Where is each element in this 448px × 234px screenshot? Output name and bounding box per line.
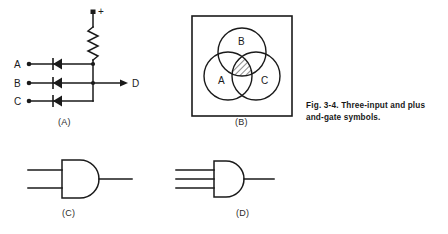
terminal-dot-a	[27, 62, 32, 67]
venn-diagram-graphic: B A C	[188, 8, 298, 132]
supply-plus-label: +	[98, 6, 104, 17]
figure-sheet: A B C D +	[0, 0, 448, 234]
figure-caption: Fig. 3-4. Three-input and plus and-gate …	[306, 100, 444, 123]
supply-terminal	[91, 10, 96, 15]
resistor-zigzag	[88, 27, 98, 60]
gate-c-body	[62, 160, 99, 198]
and-gate-symbol-2-input	[14, 148, 164, 224]
sublabel-panel-c: (C)	[62, 208, 75, 218]
output-arrowhead	[120, 80, 128, 87]
and-gate-symbol-3-input	[156, 148, 306, 224]
sublabel-panel-d: (D)	[236, 208, 249, 218]
gate-d-body	[214, 161, 244, 197]
panel-d-and-gate-3-input	[156, 148, 306, 224]
circuit-label-a: A	[14, 59, 21, 70]
junction-dot-b	[91, 81, 95, 85]
venn-label-a: A	[218, 75, 225, 86]
venn-label-c: C	[261, 75, 268, 86]
venn-label-b: B	[238, 36, 245, 47]
diode-a	[53, 58, 62, 70]
junction-dot-a	[91, 62, 95, 66]
sublabel-panel-b: (B)	[235, 117, 248, 127]
circuit-label-b: B	[14, 78, 21, 89]
circuit-label-c: C	[14, 96, 21, 107]
terminal-dot-b	[27, 81, 32, 86]
terminal-dot-c	[27, 99, 32, 104]
diode-and-circuit-schematic: A B C D +	[0, 0, 180, 132]
figure-number: Fig. 3-4.	[306, 101, 339, 110]
diode-c	[53, 95, 62, 107]
panel-c-and-gate-2-input	[14, 148, 164, 224]
panel-b-venn-diagram: B A C	[188, 8, 298, 132]
sublabel-panel-a: (A)	[58, 117, 71, 127]
circuit-label-d: D	[132, 78, 139, 89]
diode-b	[53, 77, 62, 89]
panel-a-diode-circuit: A B C D +	[0, 0, 180, 132]
